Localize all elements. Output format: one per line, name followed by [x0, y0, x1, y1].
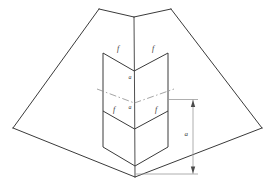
centerline-group [97, 89, 174, 103]
label-fold-top-right: f [152, 44, 156, 53]
outer-top-left-edge [99, 9, 134, 17]
label-dimension-height: a [185, 130, 189, 138]
technical-diagram: f f a a f f a [0, 0, 269, 187]
outer-left-slope-edge [13, 9, 99, 128]
inner-mid-v-left-edge [103, 111, 135, 129]
diagram-canvas: f f a a f f a [0, 0, 269, 187]
inner-upper-v-left-edge [103, 53, 134, 71]
label-fold-bottom-right: f [155, 105, 159, 114]
label-fold-top-left: f [117, 44, 121, 53]
outer-bottom-right-edge [135, 128, 262, 177]
label-panel-lower: a [129, 104, 132, 110]
central-spine-group [134, 17, 135, 177]
outer-top-right-edge [134, 9, 171, 17]
dimension-arrow-top [191, 100, 195, 107]
dimension-annotation-group [135, 100, 198, 175]
inner-mid-v-right-edge [135, 111, 168, 129]
outer-body-outline [13, 9, 262, 177]
outer-bottom-left-edge [13, 128, 135, 177]
inner-lower-v-right-edge [135, 147, 168, 166]
outer-right-slope-edge [171, 9, 262, 128]
central-fold-spine [134, 17, 135, 99]
label-fold-bottom-left: f [113, 105, 117, 114]
dimension-arrow-bottom [191, 167, 195, 174]
label-panel-upper: a [129, 74, 132, 80]
inner-lower-v-left-edge [103, 147, 135, 166]
inner-upper-v-right-edge [134, 53, 168, 71]
